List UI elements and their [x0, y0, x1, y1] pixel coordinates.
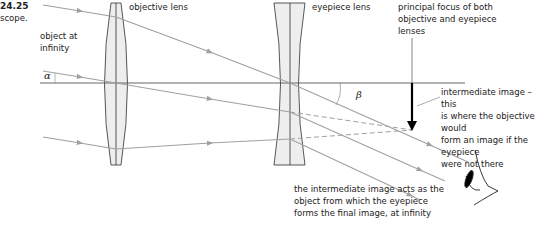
- intermediate-image-arrow: [407, 83, 417, 131]
- virtual-ray-extensions: [290, 112, 412, 139]
- eyepiece-lens: [274, 3, 305, 165]
- beta-symbol: β: [356, 89, 362, 101]
- alpha-symbol: α: [44, 70, 51, 82]
- figure-caption: scope.: [0, 13, 28, 23]
- principal-focus-label: principal focus of both objective and ey…: [398, 1, 497, 37]
- intermediate-image-leader: [417, 97, 440, 106]
- intermediate-acts-label: the intermediate image acts as the objec…: [294, 183, 444, 219]
- figure-number: 24.25: [0, 1, 28, 11]
- beta-arc: [336, 83, 341, 105]
- object-at-infinity-label: object at infinity: [40, 30, 77, 54]
- intermediate-image-label: intermediate image – this is where the o…: [441, 86, 548, 170]
- objective-lens-label: objective lens: [129, 1, 188, 13]
- eyepiece-lens-label: eyepiece lens: [312, 1, 371, 13]
